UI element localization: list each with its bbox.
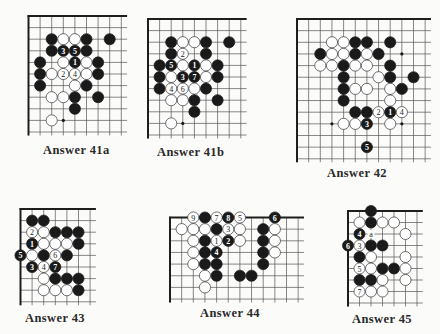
black-stone-icon [35,68,46,79]
white-stone-icon [377,274,388,285]
white-stone-icon [200,71,211,82]
white-stone-icon [46,115,57,126]
white-stone-icon [361,60,372,71]
move-number-label: 7 [53,263,57,272]
white-stone-icon [338,118,349,129]
white-stone-icon [50,238,61,249]
black-stone-icon [199,259,210,270]
white-stone-icon [69,80,80,91]
move-number-label: 7 [192,73,196,82]
black-stone-icon [350,107,361,118]
black-stone-icon [199,212,210,223]
star-point-icon [400,52,403,55]
white-stone-icon [234,224,245,235]
black-stone-icon [93,92,104,103]
black-stone-icon [166,37,177,48]
white-stone-icon [326,48,337,59]
black-stone-icon [338,95,349,106]
black-stone-icon [200,37,211,48]
white-stone-icon [338,37,349,48]
point-mark-label: a [369,230,373,239]
move-number-label: 6 [53,251,57,260]
move-number-label: 3 [226,225,230,234]
white-stone-icon [38,285,49,296]
white-stone-icon [388,217,399,228]
black-stone-icon [212,95,223,106]
white-stone-icon [61,238,72,249]
move-number-label: 2 [181,50,185,59]
white-stone-icon [234,235,245,246]
move-number-label: 1 [73,58,77,67]
black-stone-icon [199,235,210,246]
black-stone-icon [350,48,361,59]
caption-answer-43: Answer 43 [25,311,85,326]
black-stone-icon [338,60,349,71]
white-stone-icon [38,227,49,238]
black-stone-icon [211,224,222,235]
black-stone-icon [93,57,104,68]
white-stone-icon [365,251,376,262]
white-stone-icon [81,57,92,68]
caption-answer-42: Answer 42 [327,166,387,181]
black-stone-icon [38,215,49,226]
move-number-label: 6 [273,214,277,223]
white-stone-icon [385,95,396,106]
star-point-icon [62,119,65,122]
move-number-label: 4 [42,263,46,272]
black-stone-icon [258,247,269,258]
black-stone-icon [61,273,72,284]
black-stone-icon [361,107,372,118]
white-stone-icon [189,37,200,48]
white-stone-icon [269,247,280,258]
white-stone-icon [385,83,396,94]
white-stone-icon [46,68,57,79]
black-stone-icon [365,205,376,216]
white-stone-icon [269,235,280,246]
black-stone-icon [354,251,365,262]
caption-answer-41a: Answer 41a [43,143,110,158]
black-stone-icon [73,227,84,238]
white-stone-icon [350,118,361,129]
move-number-label: 4 [73,70,77,79]
move-number-label: 4 [169,85,173,94]
black-stone-icon [361,37,372,48]
black-stone-icon [365,217,376,228]
white-stone-icon [166,118,177,129]
black-stone-icon [350,37,361,48]
black-stone-icon [46,45,57,56]
black-stone-icon [154,60,165,71]
black-stone-icon [93,68,104,79]
white-stone-icon [81,68,92,79]
black-stone-icon [104,34,115,45]
move-number-label: 2 [226,237,230,246]
move-number-label: 5 [19,251,23,260]
white-stone-icon [326,37,337,48]
caption-answer-44: Answer 44 [200,306,260,321]
white-stone-icon [188,247,199,258]
black-stone-icon [200,48,211,59]
black-stone-icon [354,274,365,285]
black-stone-icon [61,250,72,261]
white-stone-icon [199,282,210,293]
white-stone-icon [400,274,411,285]
black-stone-icon [212,60,223,71]
black-stone-icon [258,224,269,235]
move-number-label: 1 [215,237,219,246]
black-stone-icon [189,106,200,117]
board-answer-45: a46357 [342,205,422,306]
black-stone-icon [211,259,222,270]
board-answer-44: 978563124 [169,212,304,303]
black-stone-icon [61,227,72,238]
white-stone-icon [400,251,411,262]
move-number-label: 8 [226,214,230,223]
black-stone-icon [408,72,419,83]
move-number-label: 6 [346,242,350,251]
move-number-label: 2 [377,108,381,117]
white-stone-icon [188,224,199,235]
move-number-label: 3 [358,242,362,251]
black-stone-icon [396,83,407,94]
white-stone-icon [27,250,38,261]
move-number-label: 5 [358,265,362,274]
black-stone-icon [377,240,388,251]
move-number-label: 6 [181,85,185,94]
